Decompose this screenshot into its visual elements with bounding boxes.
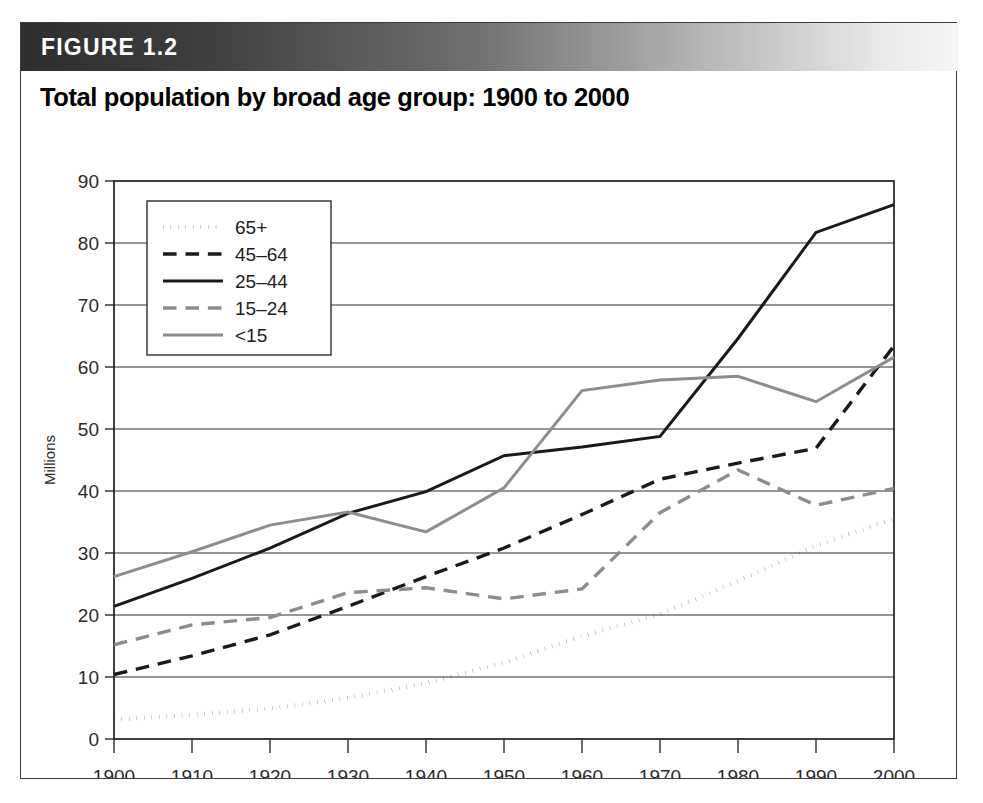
y-tick-label-90: 90: [78, 171, 99, 192]
x-tick-label-1950: 1950: [483, 766, 525, 778]
chart-plot-container: 0102030405060708090 19001910192019301940…: [21, 123, 958, 778]
x-tick-label-1930: 1930: [327, 766, 369, 778]
y-tick-label-70: 70: [78, 295, 99, 316]
y-tick-label-60: 60: [78, 357, 99, 378]
y-axis-tick-labels: 0102030405060708090: [78, 171, 99, 750]
legend-label-4: <15: [235, 325, 267, 346]
figure-number-label: FIGURE 1.2: [41, 34, 178, 61]
y-axis-title: Millions: [41, 435, 58, 485]
x-tick-label-2000: 2000: [873, 766, 915, 778]
figure-card: FIGURE 1.2 Total population by broad age…: [20, 22, 957, 779]
figure-banner: FIGURE 1.2: [21, 23, 958, 71]
x-tick-label-1980: 1980: [717, 766, 759, 778]
figure-title: Total population by broad age group: 190…: [40, 83, 629, 112]
x-tick-label-1940: 1940: [405, 766, 447, 778]
x-tick-label-1920: 1920: [249, 766, 291, 778]
y-tick-label-80: 80: [78, 233, 99, 254]
legend-label-3: 15–24: [235, 298, 288, 319]
x-tick-label-1900: 1900: [93, 766, 135, 778]
series-line-45-64: [114, 346, 894, 675]
legend-label-1: 45–64: [235, 244, 288, 265]
y-tick-label-30: 30: [78, 543, 99, 564]
x-tick-label-1970: 1970: [639, 766, 681, 778]
y-tick-label-40: 40: [78, 481, 99, 502]
y-tick-label-0: 0: [88, 729, 99, 750]
x-axis-tick-labels: 1900191019201930194019501960197019801990…: [93, 766, 915, 778]
x-tick-label-1910: 1910: [171, 766, 213, 778]
x-tick-label-1960: 1960: [561, 766, 603, 778]
y-axis-tickmarks: [105, 181, 114, 739]
y-tick-label-50: 50: [78, 419, 99, 440]
series-line-15-24: [114, 470, 894, 645]
x-axis-tickmarks: [114, 739, 894, 753]
chart-legend: 65+45–6425–4415–24<15: [147, 201, 331, 355]
series-line-15: [114, 357, 894, 576]
y-tick-label-20: 20: [78, 605, 99, 626]
line-chart: 0102030405060708090 19001910192019301940…: [21, 123, 958, 778]
y-tick-label-10: 10: [78, 667, 99, 688]
legend-label-0: 65+: [235, 217, 267, 238]
x-tick-label-1990: 1990: [795, 766, 837, 778]
legend-label-2: 25–44: [235, 271, 288, 292]
